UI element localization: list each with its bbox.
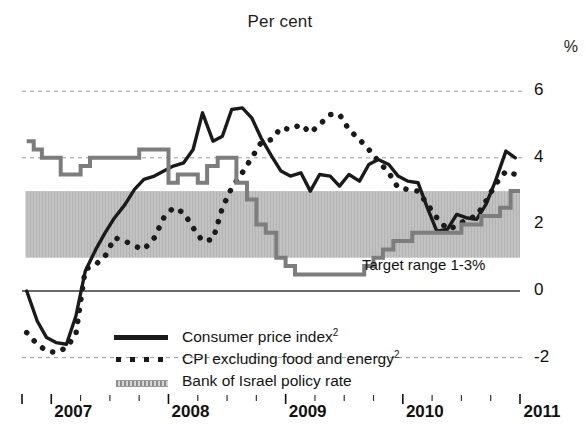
x-axis-tick-label: 2007 — [38, 402, 108, 422]
legend-label-core-cpi: CPI excluding food and energy2 — [182, 349, 400, 368]
x-axis-tick-label: 2011 — [507, 402, 577, 422]
legend-item-cpi: Consumer price index2 — [112, 326, 412, 348]
legend-item-core-cpi: CPI excluding food and energy2 — [112, 348, 412, 370]
chart-figure: Per cent % 6420-2 20072008200920102011 T… — [0, 0, 586, 431]
y-axis-tick-label: 6 — [534, 80, 574, 100]
x-axis-tick-label: 2008 — [155, 402, 225, 422]
target-range-annotation: Target range 1-3% — [362, 256, 485, 273]
y-axis-tick-label: 2 — [534, 213, 574, 233]
legend-marker-dotted-line-icon — [112, 350, 170, 368]
x-axis-tick-label: 2009 — [273, 402, 343, 422]
y-axis-tick-label: 4 — [534, 147, 574, 167]
x-axis-tick-label: 2010 — [390, 402, 460, 422]
legend-label-cpi: Consumer price index2 — [182, 327, 338, 346]
chart-legend: Consumer price index2 CPI excluding food… — [112, 326, 412, 392]
legend-marker-step-line-icon — [112, 372, 170, 390]
legend-item-policy-rate: Bank of Israel policy rate — [112, 370, 412, 392]
legend-label-policy-rate: Bank of Israel policy rate — [182, 372, 352, 390]
y-axis-tick-label: 0 — [534, 280, 574, 300]
legend-marker-solid-line-icon — [112, 328, 170, 346]
y-axis-tick-label: -2 — [534, 347, 574, 367]
